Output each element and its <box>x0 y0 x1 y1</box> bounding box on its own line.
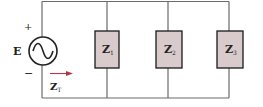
plus-sign: + <box>24 21 32 32</box>
source-label: E <box>13 45 21 58</box>
total-impedance-arrow <box>50 71 73 76</box>
impedance-z1: Z1 <box>95 31 119 68</box>
total-impedance-label: ZT <box>50 81 61 93</box>
impedance-z3: Z3 <box>217 31 243 68</box>
minus-sign: − <box>24 67 33 80</box>
ac-source <box>29 37 57 65</box>
arrow-head-icon <box>66 71 73 76</box>
wires <box>42 2 229 99</box>
circuit-diagram: + E − ZT Z1 Z2 Z3 <box>0 0 263 107</box>
impedance-z2: Z2 <box>156 31 182 68</box>
